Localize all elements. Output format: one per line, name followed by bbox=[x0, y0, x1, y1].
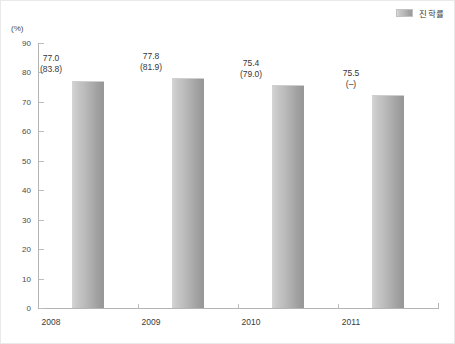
y-tick-label: 60 bbox=[22, 127, 31, 136]
x-axis-label-2011: 2011 bbox=[316, 317, 386, 327]
legend-item-label: 진학률 bbox=[419, 7, 444, 19]
bar-2011[interactable] bbox=[372, 95, 404, 308]
y-tick-label: 10 bbox=[22, 274, 31, 283]
bar-value-2011: 75.5 bbox=[343, 68, 360, 78]
x-axis-label-2009: 2009 bbox=[116, 317, 186, 327]
bar-label-2010: 75.4 (79.0) bbox=[216, 58, 286, 80]
bar-chart: 진학률 (%) 90 80 70 60 50 40 bbox=[0, 0, 455, 344]
y-tick-label: 30 bbox=[22, 215, 31, 224]
x-axis-label-2008: 2008 bbox=[16, 317, 86, 327]
y-tick-mark bbox=[39, 279, 44, 280]
y-axis-unit-label: (%) bbox=[11, 24, 23, 33]
y-tick-label: 90 bbox=[22, 39, 31, 48]
chart-legend: 진학률 bbox=[396, 7, 444, 19]
bar-value-2010: 75.4 bbox=[243, 58, 260, 68]
x-axis-label-2010: 2010 bbox=[216, 317, 286, 327]
y-tick-mark bbox=[39, 308, 44, 309]
bar-2009[interactable] bbox=[172, 78, 204, 308]
y-axis-line bbox=[38, 43, 39, 309]
x-tick-mark bbox=[238, 304, 239, 309]
bar-label-2011: 75.5 (–) bbox=[316, 68, 386, 90]
y-tick-label: 40 bbox=[22, 186, 31, 195]
bar-subvalue-2009: (81.9) bbox=[116, 62, 186, 73]
y-tick-mark bbox=[39, 220, 44, 221]
y-tick-mark bbox=[39, 43, 44, 44]
x-tick-mark bbox=[338, 304, 339, 309]
y-tick-mark bbox=[39, 249, 44, 250]
y-tick-label: 70 bbox=[22, 97, 31, 106]
y-tick-label: 0 bbox=[27, 304, 31, 313]
bar-value-2008: 77.0 bbox=[43, 53, 60, 63]
x-tick-mark bbox=[138, 304, 139, 309]
y-tick-label: 20 bbox=[22, 245, 31, 254]
bar-2010[interactable] bbox=[272, 85, 304, 308]
y-tick-mark bbox=[39, 102, 44, 103]
bar-subvalue-2011: (–) bbox=[316, 79, 386, 90]
y-tick-mark bbox=[39, 161, 44, 162]
bar-subvalue-2010: (79.0) bbox=[216, 69, 286, 80]
y-tick-mark bbox=[39, 190, 44, 191]
bar-subvalue-2008: (83.8) bbox=[16, 64, 86, 75]
bar-value-2009: 77.8 bbox=[143, 51, 160, 61]
x-axis-end-tick bbox=[438, 303, 439, 309]
legend-swatch-icon bbox=[396, 9, 413, 17]
bar-label-2009: 77.8 (81.9) bbox=[116, 51, 186, 73]
bar-2008[interactable] bbox=[72, 81, 104, 309]
y-tick-label: 50 bbox=[22, 156, 31, 165]
bar-label-2008: 77.0 (83.8) bbox=[16, 53, 86, 75]
y-tick-mark bbox=[39, 131, 44, 132]
